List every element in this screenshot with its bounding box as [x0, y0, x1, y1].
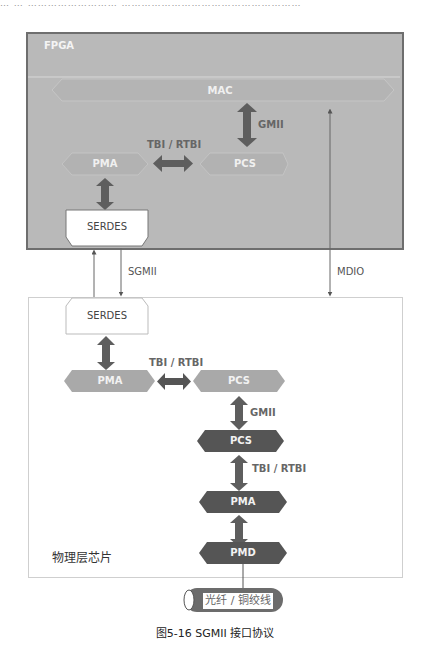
- phy-pcs-upper-label: PCS: [209, 375, 269, 386]
- phy-tbi-horizontal-label: TBI / RTBI: [149, 357, 203, 368]
- phy-pmd-label: PMD: [213, 547, 273, 558]
- phy-gmii-arrow: [230, 396, 248, 430]
- fpga-gmii-arrow: [237, 103, 257, 147]
- fpga-pma-serdes-arrow: [96, 178, 114, 210]
- fpga-pma-label: PMA: [80, 158, 130, 169]
- fpga-serdes-label: SERDES: [66, 221, 148, 232]
- phy-gmii-label: GMII: [250, 407, 276, 418]
- phy-serdes-pma-arrow: [97, 336, 115, 370]
- cable-label: 光纤 / 铜绞线: [203, 593, 273, 609]
- figure-caption: 图5-16 SGMII 接口协议: [0, 624, 430, 640]
- fpga-gmii-label: GMII: [258, 119, 284, 130]
- fpga-tbi-label: TBI / RTBI: [147, 139, 201, 150]
- phy-pma-lower-label: PMA: [213, 496, 273, 507]
- sgmii-label: SGMII: [128, 266, 157, 277]
- phy-tbi-vertical-arrow: [230, 455, 248, 491]
- phy-pma-upper-label: PMA: [80, 375, 140, 386]
- fpga-pcs-label: PCS: [215, 158, 275, 169]
- phy-serdes-label: SERDES: [66, 310, 148, 321]
- mdio-label: MDIO: [337, 266, 364, 277]
- phy-tbi-horizontal-arrow: [157, 373, 191, 390]
- phy-pcs-lower-label: PCS: [211, 435, 271, 446]
- fpga-mac-label: MAC: [200, 85, 240, 96]
- fpga-tbi-arrow: [153, 155, 193, 172]
- phy-tbi-vertical-label: TBI / RTBI: [252, 463, 306, 474]
